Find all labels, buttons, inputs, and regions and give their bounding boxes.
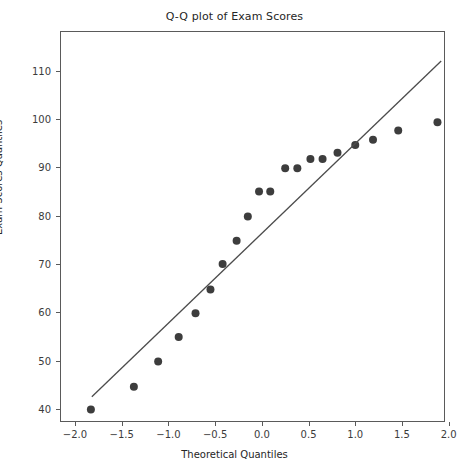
y-tick-mark — [56, 216, 60, 217]
data-point — [334, 149, 342, 157]
plot-area — [60, 31, 445, 422]
y-tick-label: 60 — [0, 307, 51, 318]
x-tick-mark — [75, 422, 76, 426]
data-point — [130, 383, 138, 391]
scatter-series — [87, 118, 442, 413]
page-title: Q-Q plot of Exam Scores — [0, 10, 469, 23]
data-point — [433, 118, 441, 126]
data-point — [175, 333, 183, 341]
y-tick-mark — [56, 119, 60, 120]
data-point — [394, 127, 402, 135]
x-tick-label: 1.5 — [394, 429, 410, 440]
y-tick-mark — [56, 409, 60, 410]
data-point — [192, 309, 200, 317]
y-tick-label: 90 — [0, 162, 51, 173]
data-point — [351, 141, 359, 149]
x-tick-label: −0.5 — [203, 429, 227, 440]
data-point — [306, 155, 314, 163]
data-point — [233, 237, 241, 245]
y-tick-mark — [56, 71, 60, 72]
x-tick-mark — [262, 422, 263, 426]
x-tick-mark — [168, 422, 169, 426]
y-tick-mark — [56, 264, 60, 265]
data-point — [219, 260, 227, 268]
data-point — [281, 164, 289, 172]
data-point — [293, 164, 301, 172]
x-tick-mark — [402, 422, 403, 426]
y-tick-label: 80 — [0, 210, 51, 221]
y-tick-mark — [56, 312, 60, 313]
x-tick-label: −1.5 — [110, 429, 134, 440]
qq-plot-figure: Q-Q plot of Exam Scores Exam Scores Quan… — [0, 0, 469, 471]
data-point — [255, 187, 263, 195]
y-tick-label: 110 — [0, 65, 51, 76]
data-point — [319, 155, 327, 163]
x-tick-mark — [309, 422, 310, 426]
x-tick-mark — [122, 422, 123, 426]
data-point — [154, 358, 162, 366]
x-tick-label: −1.0 — [156, 429, 180, 440]
data-point — [369, 136, 377, 144]
y-tick-label: 100 — [0, 113, 51, 124]
y-tick-mark — [56, 167, 60, 168]
x-tick-mark — [449, 422, 450, 426]
x-axis-label: Theoretical Quantiles — [0, 449, 469, 460]
data-point — [244, 213, 252, 221]
x-tick-label: −2.0 — [63, 429, 87, 440]
y-tick-mark — [56, 361, 60, 362]
reference-line — [92, 61, 441, 397]
x-tick-mark — [215, 422, 216, 426]
x-tick-label: 2.0 — [441, 429, 457, 440]
x-tick-label: 0.5 — [301, 429, 317, 440]
y-tick-label: 50 — [0, 355, 51, 366]
data-point — [87, 405, 95, 413]
x-tick-mark — [355, 422, 356, 426]
x-tick-label: 1.0 — [347, 429, 363, 440]
x-tick-label: 0.0 — [254, 429, 270, 440]
y-tick-label: 70 — [0, 258, 51, 269]
data-point — [206, 286, 214, 294]
plot-canvas — [61, 32, 444, 421]
data-point — [266, 187, 274, 195]
y-tick-label: 40 — [0, 403, 51, 414]
